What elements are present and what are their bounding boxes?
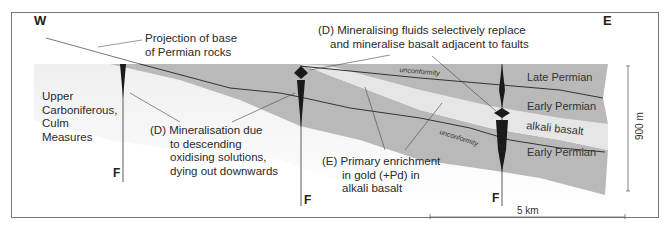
projection-line (46, 38, 140, 64)
layer-label-late-permian: Late Permian (527, 71, 592, 83)
layer-label-early-permian-upper: Early Permian (527, 100, 596, 112)
mineralising-fluids-label: (D) Mineralising fluids selectively repl… (318, 24, 529, 51)
fault-label-3: F (492, 191, 499, 205)
culm-measures-label: Upper Carboniferous, Culm Measures (42, 90, 117, 144)
projection-leader (98, 40, 142, 47)
fault-label-1: F (113, 166, 120, 180)
fault-label-2: F (304, 193, 311, 207)
mineralisation-descending-label: (D) Mineralisation due to descending oxi… (150, 124, 278, 178)
vertical-scale-label: 900 m (634, 112, 645, 140)
west-label: W (34, 13, 46, 28)
layer-label-early-permian-lower: Early Permian (527, 146, 596, 158)
primary-enrichment-label: (E) Primary enrichment in gold (+Pd) in … (322, 155, 440, 196)
projection-label: Projection of base of Permian rocks (145, 32, 237, 59)
horizontal-scale-label: 5 km (517, 205, 539, 216)
east-label: E (603, 13, 612, 28)
